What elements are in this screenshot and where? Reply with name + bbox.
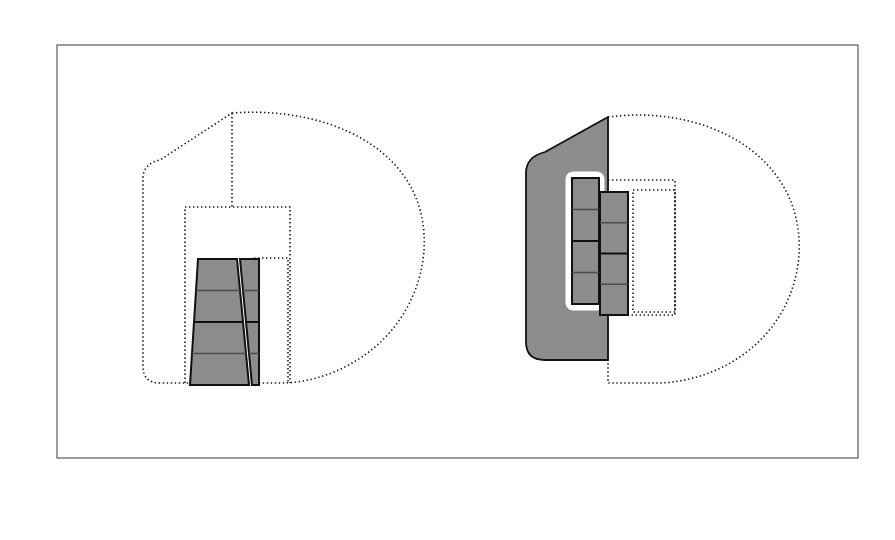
diagram-canvas xyxy=(0,0,895,540)
outer-frame-border xyxy=(57,45,858,458)
right-body-outline xyxy=(608,115,799,383)
right-inner-dotted-rect xyxy=(633,190,675,312)
diagram-svg xyxy=(0,0,895,540)
right-strip-pair xyxy=(572,178,628,315)
left-view-group xyxy=(143,112,424,385)
right-view-group xyxy=(526,115,799,383)
left-strip-pair xyxy=(190,259,259,385)
